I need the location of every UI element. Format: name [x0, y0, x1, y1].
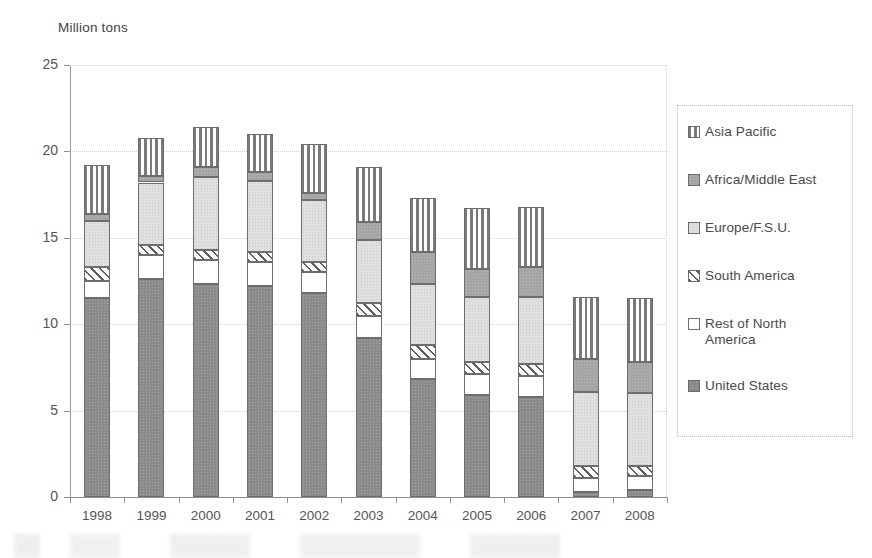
legend-swatch-icon	[688, 270, 700, 282]
x-tick-label: 2004	[396, 508, 450, 523]
legend-item[interactable]: United States	[688, 378, 788, 394]
bar-segment	[573, 297, 599, 359]
bar-segment	[193, 260, 219, 284]
x-tick-mark	[558, 497, 559, 503]
bar-segment	[356, 167, 382, 222]
bar-segment	[627, 476, 653, 490]
bar-segment	[138, 138, 164, 176]
bar-segment	[84, 298, 110, 497]
x-tick-mark	[667, 497, 668, 503]
x-tick-mark	[396, 497, 397, 503]
legend-item-label: Africa/Middle East	[705, 172, 816, 188]
legend-item[interactable]: Europe/F.S.U.	[688, 220, 791, 236]
legend-item-label: South America	[705, 268, 795, 284]
legend-swatch-icon	[688, 126, 700, 138]
bar-segment	[356, 316, 382, 338]
bar-segment	[410, 359, 436, 380]
x-tick-label: 1999	[124, 508, 178, 523]
bar-segment	[518, 267, 544, 296]
bar-segment	[627, 466, 653, 476]
bar-segment	[356, 222, 382, 239]
bar-segment	[627, 393, 653, 466]
bar-segment	[464, 297, 490, 363]
bar-segment	[84, 221, 110, 268]
x-tick-label: 2003	[342, 508, 396, 523]
bar-segment	[247, 252, 273, 262]
bar-segment	[573, 466, 599, 478]
bar-segment	[410, 284, 436, 344]
legend-item[interactable]: Rest of North America	[688, 316, 786, 348]
bar-segment	[84, 214, 110, 221]
x-tick-mark	[233, 497, 234, 503]
x-tick-mark	[341, 497, 342, 503]
bar-segment	[301, 262, 327, 272]
bar-segment	[301, 293, 327, 497]
bar-segment	[518, 376, 544, 397]
x-tick-mark	[504, 497, 505, 503]
x-tick-label: 2008	[613, 508, 667, 523]
bar-segment	[138, 245, 164, 255]
bar-segment	[138, 176, 164, 183]
x-tick-label: 2002	[287, 508, 341, 523]
bar-segment	[518, 207, 544, 267]
x-tick-mark	[613, 497, 614, 503]
x-tick-label: 2006	[504, 508, 558, 523]
bar-segment	[464, 395, 490, 497]
legend-item-label: Europe/F.S.U.	[705, 220, 791, 236]
legend-item-label: Rest of North America	[705, 316, 786, 348]
legend-swatch-icon	[688, 318, 700, 330]
bar-segment	[247, 172, 273, 181]
bar-segment	[356, 338, 382, 497]
bar-segment	[84, 267, 110, 281]
legend-swatch-icon	[688, 380, 700, 392]
bar-segment	[301, 144, 327, 192]
bar-segment	[301, 272, 327, 293]
bar-segment	[193, 167, 219, 177]
scan-artifact	[0, 534, 872, 558]
x-axis-line	[70, 497, 667, 498]
bar-segment	[573, 392, 599, 466]
x-tick-mark	[70, 497, 71, 503]
bar-segment	[627, 490, 653, 497]
bar-segment	[193, 284, 219, 497]
bar-segment	[301, 193, 327, 200]
bar-segment	[84, 165, 110, 213]
legend: Asia PacificAfrica/Middle EastEurope/F.S…	[677, 105, 853, 437]
x-tick-label: 1998	[70, 508, 124, 523]
bar-segment	[193, 177, 219, 250]
bar-segment	[518, 297, 544, 364]
bar-segment	[193, 127, 219, 167]
bar-segment	[138, 255, 164, 279]
legend-item-label: United States	[705, 378, 788, 394]
bar-segment	[193, 250, 219, 260]
legend-swatch-icon	[688, 222, 700, 234]
bar-segment	[410, 252, 436, 285]
bar-segment	[247, 134, 273, 172]
bar-segment	[138, 279, 164, 497]
bar-segment	[410, 379, 436, 497]
bar-segment	[464, 362, 490, 374]
legend-item[interactable]: South America	[688, 268, 795, 284]
bar-segment	[247, 262, 273, 286]
legend-item-label: Asia Pacific	[705, 124, 776, 140]
bar-segment	[247, 286, 273, 497]
legend-item[interactable]: Asia Pacific	[688, 124, 776, 140]
chart-root: Million tons 0510152025 1998199920002001…	[0, 0, 872, 558]
bar-segment	[356, 240, 382, 304]
x-tick-mark	[179, 497, 180, 503]
legend-item[interactable]: Africa/Middle East	[688, 172, 816, 188]
legend-swatch-icon	[688, 174, 700, 186]
bar-segment	[138, 183, 164, 245]
bar-segment	[410, 198, 436, 252]
bar-segment	[464, 208, 490, 268]
bar-segment	[518, 397, 544, 497]
x-tick-label: 2001	[233, 508, 287, 523]
x-tick-mark	[287, 497, 288, 503]
x-tick-mark	[450, 497, 451, 503]
x-tick-label: 2000	[179, 508, 233, 523]
bar-segment	[301, 200, 327, 262]
bar-segment	[410, 345, 436, 359]
bar-segment	[247, 181, 273, 252]
x-tick-label: 2005	[450, 508, 504, 523]
bar-segment	[356, 303, 382, 315]
